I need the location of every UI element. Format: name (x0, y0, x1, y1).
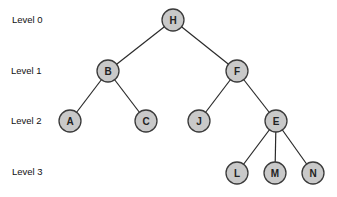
node-C: C (135, 110, 157, 132)
tree-edges (70, 20, 313, 173)
node-M: M (264, 162, 286, 184)
edge-H-B (108, 20, 173, 71)
node-label: J (196, 116, 202, 127)
node-F: F (226, 60, 248, 82)
node-A: A (59, 110, 81, 132)
node-label: M (271, 168, 279, 179)
node-E: E (265, 110, 287, 132)
node-J: J (188, 110, 210, 132)
node-label: F (234, 66, 240, 77)
node-label: A (66, 116, 73, 127)
node-N: N (302, 162, 324, 184)
node-H: H (162, 9, 184, 31)
node-label: E (273, 116, 280, 127)
node-label: B (104, 66, 111, 77)
node-L: L (226, 162, 248, 184)
node-label: H (169, 15, 176, 26)
node-label: N (309, 168, 316, 179)
node-B: B (97, 60, 119, 82)
tree-diagram: HBFACJELMN (0, 0, 337, 197)
node-label: L (234, 168, 240, 179)
node-label: C (142, 116, 149, 127)
edge-H-F (173, 20, 237, 71)
